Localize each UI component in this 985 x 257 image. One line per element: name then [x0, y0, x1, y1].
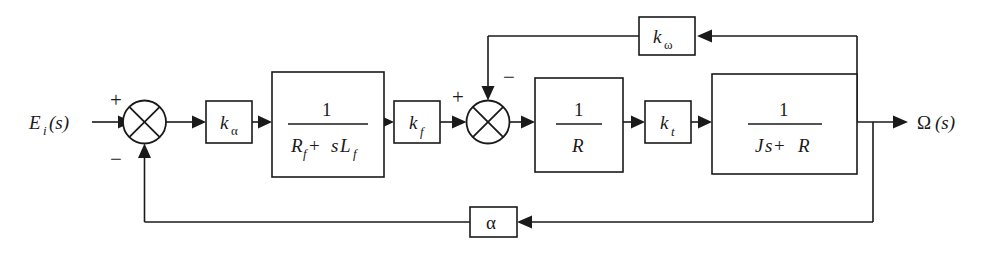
k-t-symbol: k	[660, 112, 669, 133]
armature-resistance-block[interactable]: 1 R	[535, 78, 623, 172]
resistance-block-numerator: 1	[574, 99, 584, 120]
field-denom-plus: +	[309, 135, 320, 156]
k-alpha-subscript: α	[231, 123, 238, 138]
block-diagram-canvas: + − + − E i (s) Ω (s) k α 1	[0, 0, 985, 257]
wire-k-f-to-inner-junction	[440, 116, 467, 129]
field-block-numerator: 1	[322, 99, 332, 120]
input-signal-label: E i (s)	[28, 112, 69, 138]
gain-block-k-t[interactable]: k t	[645, 101, 691, 143]
feedback-gain-block-alpha[interactable]: α	[470, 207, 517, 237]
input-label-subscript: i	[43, 123, 47, 138]
inner-junction-plus-sign: +	[452, 85, 464, 109]
field-transfer-function-block[interactable]: 1 R f + s L f	[272, 72, 384, 177]
mech-denom-R: R	[797, 135, 810, 156]
gain-block-k-alpha[interactable]: k α	[206, 101, 252, 143]
field-denom-L: L	[339, 135, 351, 156]
k-f-symbol: k	[409, 112, 418, 133]
wire-resistance-block-to-k-t	[623, 116, 645, 129]
control-system-block-diagram: + − + − E i (s) Ω (s) k α 1	[0, 0, 985, 257]
mechanical-transfer-function-block[interactable]: 1 J s + R	[712, 74, 857, 174]
inner-junction-minus-sign: −	[503, 65, 515, 89]
wire-k-alpha-to-field-block	[252, 116, 272, 129]
mech-denom-plus: +	[774, 135, 785, 156]
field-denom-Rf-R: R	[290, 135, 303, 156]
mechanical-block-denominator: J s + R	[755, 135, 810, 156]
alpha-symbol: α	[486, 212, 496, 233]
output-signal-label: Ω (s)	[917, 112, 955, 134]
k-alpha-symbol: k	[220, 112, 229, 133]
k-omega-subscript: ω	[664, 37, 673, 52]
field-denom-s: s	[331, 135, 338, 156]
feedback-gain-block-k-omega[interactable]: k ω	[639, 17, 695, 55]
outer-junction-minus-sign: −	[110, 147, 122, 171]
wire-k-t-to-mechanical-block	[691, 116, 712, 129]
input-label-argument: (s)	[49, 112, 69, 134]
wire-mechanical-block-to-output	[857, 116, 908, 129]
k-t-subscript: t	[671, 124, 675, 139]
gain-block-k-f[interactable]: k f	[394, 101, 440, 143]
outer-summing-junction[interactable]	[123, 101, 166, 144]
output-label-argument: (s)	[935, 112, 955, 134]
inner-summing-junction[interactable]	[467, 101, 510, 144]
outer-junction-plus-sign: +	[110, 88, 122, 112]
resistance-block-denominator: R	[571, 135, 584, 156]
k-omega-symbol: k	[653, 26, 662, 47]
wire-inner-junction-to-resistance-block	[510, 116, 536, 129]
output-label-main: Ω	[917, 112, 931, 133]
input-label-main: E	[28, 112, 41, 133]
mech-denom-s: s	[765, 135, 772, 156]
wire-outer-junction-to-k-alpha	[166, 116, 206, 129]
mechanical-block-numerator: 1	[779, 99, 789, 120]
